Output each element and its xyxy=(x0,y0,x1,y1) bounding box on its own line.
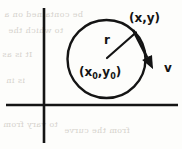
velocity-arrow-shaft xyxy=(133,30,147,57)
label-point-on-circle: (x,y) xyxy=(129,11,160,25)
radius-line xyxy=(107,33,136,59)
circular-motion-figure: be contained on a to which the It is as … xyxy=(0,0,182,149)
label-center-mid: ,y xyxy=(98,65,111,79)
label-center-group: (x0,y0) xyxy=(79,65,121,81)
velocity-arrow xyxy=(133,30,153,69)
label-center-close: ) xyxy=(116,65,121,79)
diagram-canvas: (x,y) r (x0,y0) v xyxy=(0,0,182,149)
label-velocity: v xyxy=(164,61,172,75)
label-center: (x0,y0) xyxy=(79,65,121,81)
label-radius: r xyxy=(104,33,110,47)
label-center-open: (x xyxy=(79,65,92,79)
